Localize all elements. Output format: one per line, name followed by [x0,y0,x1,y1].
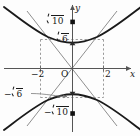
label-sqrt-6-positive: 6 [57,33,69,44]
radical-sign-icon [52,106,57,116]
label-sqrt-10-negative-radicand: 10 [56,106,69,117]
label-sqrt-10-positive: 10 [47,15,64,26]
hyperbola-figure: y x O −2 2 10 6 −6 −10 [0,0,140,136]
label-sqrt-10-positive-radicand: 10 [51,15,64,26]
label-sqrt-10-negative: −10 [44,106,69,117]
radical-sign-icon [12,88,17,98]
label-sqrt-6-negative-radicand: 6 [16,88,24,99]
y-axis-label: y [75,4,80,13]
radical-sign-icon [57,33,62,43]
origin-label: O [61,70,68,79]
figure-canvas [0,0,140,136]
x-tick-label-negative-two: −2 [31,70,44,79]
label-sqrt-10-negative-sign: − [44,107,52,117]
label-sqrt-6-negative-sign: − [4,89,12,99]
label-sqrt-6-negative: −6 [4,88,23,99]
focus-upper-marker [70,20,75,25]
label-sqrt-6-positive-radicand: 6 [61,33,69,44]
focus-lower-marker [70,111,75,116]
radical-sign-icon [47,15,52,25]
x-tick-label-positive-two: 2 [105,70,111,79]
x-axis-label: x [130,70,135,79]
